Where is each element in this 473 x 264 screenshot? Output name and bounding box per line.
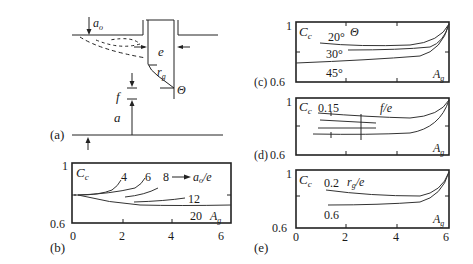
- curve-label-45deg: 45°: [326, 66, 343, 80]
- symbol-a: a: [114, 110, 121, 125]
- symbol-ao: ao: [93, 16, 103, 32]
- curve-label-0.2: 0.2: [324, 176, 339, 190]
- curve-label-12: 12: [188, 192, 200, 206]
- curve-c-45: [296, 24, 449, 63]
- x-tick-2: 2: [342, 230, 348, 244]
- curve-label-8: 8: [163, 170, 169, 184]
- symbol-e: e: [158, 44, 164, 59]
- symbol-theta: Θ: [177, 83, 186, 97]
- ylabel-cc: Cc: [299, 99, 312, 116]
- x-tick-4: 4: [393, 230, 399, 244]
- curve-b-12: [134, 198, 185, 202]
- y-tick-1: 1: [286, 19, 292, 33]
- curve-c-30: [348, 24, 449, 50]
- symbol-rg: rg: [157, 65, 166, 81]
- curve-e-02: [326, 172, 449, 196]
- panel-a-schematic: e rg Θ ao f a (a): [50, 16, 223, 150]
- y-tick-1: 1: [62, 159, 68, 173]
- x-tick-6: 6: [218, 229, 224, 243]
- symbol-f: f: [116, 89, 122, 104]
- plot-frame-e: [296, 170, 449, 228]
- ylabel-cc: Cc: [299, 172, 312, 189]
- curve-label-0.6: 0.6: [324, 208, 339, 222]
- figure-canvas: e rg Θ ao f a (a) 1 0.6 0 2 4: [0, 0, 473, 264]
- xlabel-ag: Ag: [209, 209, 221, 225]
- y-tick-0.6: 0.6: [272, 221, 287, 235]
- legend-rg-e: rg/e: [347, 175, 365, 190]
- x-tick-6: 6: [443, 230, 449, 244]
- curve-label-20deg: 20°: [328, 30, 345, 44]
- panel-d-chart: 1 (d) 0.6 Cc 0.15 f/e Ag: [254, 95, 449, 162]
- curve-b-20: [78, 195, 231, 206]
- panel-c-chart: 1 (c) 0.6 Cc 20° Θ 30° 45° Ag: [254, 19, 449, 89]
- panel-a-label: (a): [50, 127, 64, 142]
- panel-b-chart: 1 0.6 0 2 4 6 (b) Cc 4 6 8 ao/e 12 20 Ag: [50, 159, 231, 255]
- plot-frame-c: [296, 22, 449, 82]
- y-tick-1: 1: [286, 95, 292, 109]
- curve-d-2: [320, 120, 376, 123]
- curve-label-4: 4: [121, 170, 127, 184]
- panel-d-label: (d): [254, 148, 268, 162]
- ylabel-cc: Cc: [76, 165, 89, 182]
- y-tick-0.6: 0.6: [270, 75, 285, 89]
- curve-b-4: [78, 180, 121, 195]
- panel-e-label: (e): [254, 240, 268, 255]
- x-tick-0: 0: [70, 229, 76, 243]
- legend-ao-e: ao/e: [193, 170, 212, 185]
- panel-e-chart: 1 0.6 0 2 4 6 (e) Cc 0.2 rg/e 0.6 Ag: [254, 167, 449, 255]
- curve-label-6: 6: [145, 170, 151, 184]
- ylabel-cc: Cc: [299, 24, 312, 41]
- legend-theta: Θ: [350, 25, 359, 39]
- curve-label-30deg: 30°: [326, 47, 343, 61]
- vortex-dashed: [96, 39, 140, 47]
- panel-c-label: (c): [254, 75, 267, 89]
- curve-label-20: 20: [190, 209, 202, 223]
- xlabel-ag: Ag: [432, 212, 444, 228]
- y-tick-0.6: 0.6: [270, 148, 285, 162]
- x-tick-0: 0: [293, 230, 299, 244]
- x-tick-4: 4: [168, 229, 174, 243]
- y-tick-0.6: 0.6: [50, 217, 65, 231]
- curve-label-0.15: 0.15: [318, 101, 339, 115]
- x-tick-2: 2: [119, 229, 125, 243]
- y-tick-1: 1: [286, 167, 292, 181]
- legend-f-e: f/e: [380, 101, 393, 115]
- xlabel-ag: Ag: [432, 141, 444, 157]
- xlabel-ag: Ag: [432, 67, 444, 83]
- panel-b-label: (b): [50, 240, 65, 255]
